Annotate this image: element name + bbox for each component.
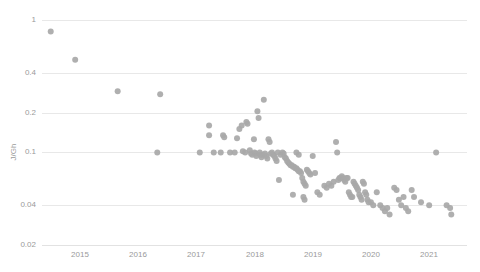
data-point	[370, 202, 376, 208]
data-point	[72, 57, 78, 63]
data-point	[363, 192, 369, 198]
x-tick-label: 2015	[71, 250, 89, 259]
data-point	[157, 91, 163, 97]
data-point	[154, 149, 160, 155]
data-point	[302, 197, 308, 203]
y-tick-label: 0.1	[25, 147, 37, 156]
data-point	[218, 149, 224, 155]
data-point	[334, 149, 340, 155]
data-point	[245, 121, 251, 127]
data-point	[298, 170, 304, 176]
data-point	[274, 158, 280, 164]
y-tick-label: 0.04	[20, 200, 36, 209]
scatter-chart: 0.020.040.10.20.41 201520162017201820192…	[0, 0, 480, 272]
data-point	[361, 181, 367, 187]
data-point	[251, 136, 257, 142]
data-point	[310, 153, 316, 159]
data-point	[333, 139, 339, 145]
x-tick-label: 2021	[420, 250, 438, 259]
data-point	[48, 28, 54, 34]
data-point	[384, 205, 390, 211]
data-point	[317, 192, 323, 198]
data-point	[256, 115, 262, 121]
data-point	[411, 194, 417, 200]
y-tick-label: 0.4	[25, 68, 37, 77]
data-point	[374, 189, 380, 195]
x-tick-label: 2017	[187, 250, 205, 259]
data-point	[387, 211, 393, 217]
data-point	[394, 187, 400, 193]
y-tick-label: 0.2	[25, 108, 37, 117]
data-point	[447, 205, 453, 211]
data-point	[296, 152, 302, 158]
y-axis-tick-labels: 0.020.040.10.20.41	[20, 15, 36, 249]
data-point	[234, 135, 240, 141]
data-point	[418, 199, 424, 205]
data-point	[276, 177, 282, 183]
data-point	[264, 155, 270, 161]
data-point	[433, 149, 439, 155]
data-point	[267, 139, 273, 145]
data-point	[426, 202, 432, 208]
data-point	[359, 197, 365, 203]
data-point	[254, 108, 260, 114]
y-tick-label: 1	[32, 15, 37, 24]
data-point	[206, 132, 212, 138]
y-axis-title: J/Gh	[9, 144, 18, 161]
data-point	[401, 194, 407, 200]
y-tick-label: 0.02	[20, 240, 36, 249]
x-tick-label: 2018	[246, 250, 264, 259]
data-point	[448, 211, 454, 217]
data-point	[405, 208, 411, 214]
data-point	[290, 192, 296, 198]
data-point	[261, 97, 267, 103]
data-point	[115, 88, 121, 94]
data-points-group	[48, 28, 455, 217]
chart-canvas: 0.020.040.10.20.41 201520162017201820192…	[0, 0, 480, 272]
data-point	[221, 134, 227, 140]
x-tick-label: 2019	[304, 250, 322, 259]
data-point	[345, 175, 351, 181]
data-point	[232, 149, 238, 155]
data-point	[197, 149, 203, 155]
data-point	[409, 187, 415, 193]
x-tick-label: 2016	[129, 250, 147, 259]
data-point	[303, 183, 309, 189]
x-axis-tick-labels: 2015201620172018201920202021	[71, 250, 438, 259]
data-point	[211, 149, 217, 155]
x-tick-label: 2020	[362, 250, 380, 259]
gridlines-group	[42, 21, 467, 246]
data-point	[312, 170, 318, 176]
data-point	[349, 194, 355, 200]
data-point	[206, 122, 212, 128]
